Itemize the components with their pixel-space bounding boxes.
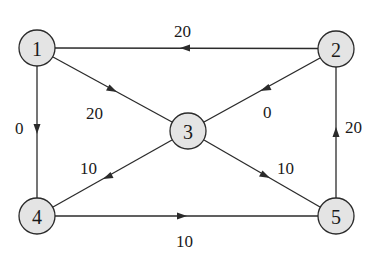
node-3: 3 xyxy=(170,113,206,149)
arrowhead-icon xyxy=(103,172,114,179)
edge-weight-3-4: 10 xyxy=(80,159,97,178)
edge-weight-2-1: 20 xyxy=(174,22,191,41)
edge-weight-1-4: 0 xyxy=(15,119,24,138)
edge-weight-2-3: 0 xyxy=(263,103,272,122)
edge-weight-4-5: 10 xyxy=(176,232,193,251)
graph-diagram: 20 20 0 0 10 10 20 10 1 2 3 4 5 xyxy=(0,0,381,270)
node-label: 5 xyxy=(331,206,341,228)
arrowhead-icon xyxy=(177,213,187,220)
arrowhead-icon xyxy=(180,45,190,52)
node-4: 4 xyxy=(19,198,55,234)
node-label: 2 xyxy=(331,39,341,61)
node-label: 1 xyxy=(32,38,42,60)
edge-weight-5-2: 20 xyxy=(345,118,362,137)
node-1: 1 xyxy=(19,30,55,66)
edge-3-4 xyxy=(53,140,172,207)
node-label: 4 xyxy=(32,206,42,228)
arrowhead-icon xyxy=(333,127,340,137)
node-label: 3 xyxy=(183,121,193,143)
arrowhead-icon xyxy=(34,124,41,134)
edge-weight-3-5: 10 xyxy=(277,159,294,178)
arrowhead-icon xyxy=(259,171,270,179)
node-5: 5 xyxy=(318,198,354,234)
node-2: 2 xyxy=(318,31,354,67)
edge-weight-1-3: 20 xyxy=(86,104,103,123)
arrowhead-icon xyxy=(106,85,117,93)
